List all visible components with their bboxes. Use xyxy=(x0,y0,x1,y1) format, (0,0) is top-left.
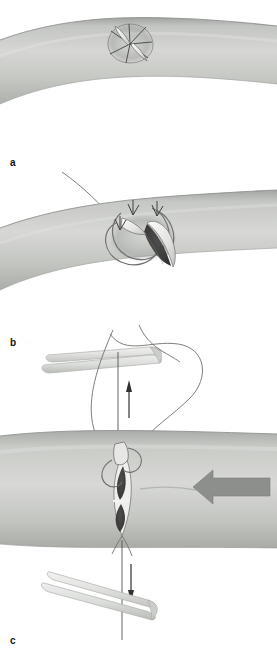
panel-label-a: a xyxy=(10,158,16,168)
figure-canvas xyxy=(0,0,277,654)
panel-c-graphic xyxy=(0,325,277,640)
lower-forceps xyxy=(41,572,157,620)
panel-b-graphic xyxy=(0,172,277,290)
upper-forceps xyxy=(42,347,162,373)
up-arrow xyxy=(126,380,132,418)
panel-a-graphic xyxy=(0,17,277,104)
surgical-technique-figure: a b c xyxy=(0,0,277,654)
panel-label-c: c xyxy=(10,636,16,646)
stellate-incision-a xyxy=(106,23,154,63)
panel-label-b: b xyxy=(10,338,16,348)
suture-knot-c xyxy=(114,442,129,465)
